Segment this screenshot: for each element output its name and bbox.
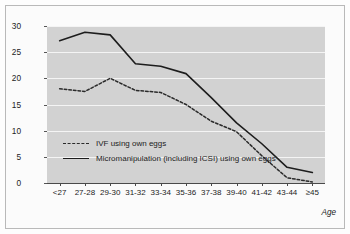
legend-key-dashed — [63, 143, 89, 144]
x-axis-tick-mark — [211, 183, 212, 186]
x-axis-tick-mark — [312, 183, 313, 186]
x-axis-tick-label: 29-30 — [100, 188, 120, 197]
x-axis-tick-mark — [85, 183, 86, 186]
x-axis-tick-mark — [186, 183, 187, 186]
y-axis-tick-label: 0 — [0, 178, 21, 188]
x-axis-tick-mark — [110, 183, 111, 186]
x-axis-tick-mark — [135, 183, 136, 186]
figure-container: Live birth per cycle started (percentage… — [0, 0, 350, 234]
legend-item: IVF using own eggs — [63, 136, 276, 151]
y-axis-tick-label: 10 — [0, 126, 21, 136]
legend: IVF using own eggsMicromanipulation (inc… — [63, 136, 276, 166]
y-axis-tick-label: 25 — [0, 47, 21, 57]
x-axis-tick-mark — [60, 183, 61, 186]
x-axis-tick-label: 37-38 — [201, 188, 221, 197]
x-axis-tick-label: <27 — [53, 188, 67, 197]
x-axis-title: Age — [321, 208, 336, 217]
x-axis-tick-label: ≥45 — [306, 188, 319, 197]
x-axis-tick-mark — [237, 183, 238, 186]
y-axis-tick-label: 15 — [0, 100, 21, 110]
legend-label: IVF using own eggs — [96, 139, 166, 148]
series-line — [60, 78, 313, 182]
x-axis-tick-label: 27-28 — [75, 188, 95, 197]
x-axis-tick-label: 41-42 — [252, 188, 272, 197]
x-axis-tick-mark — [262, 183, 263, 186]
legend-label: Micromanipulation (including ICSI) using… — [96, 154, 276, 163]
y-axis-tick-label: 30 — [0, 21, 21, 31]
x-axis-tick-label: 39-40 — [226, 188, 246, 197]
legend-key-solid — [63, 158, 89, 159]
x-axis-tick-label: 35-36 — [176, 188, 196, 197]
x-axis-tick-label: 33-34 — [150, 188, 170, 197]
y-axis-tick-label: 5 — [0, 152, 21, 162]
x-axis-tick-mark — [161, 183, 162, 186]
x-axis-tick-label: 43-44 — [277, 188, 297, 197]
x-axis-tick-label: 31-32 — [125, 188, 145, 197]
legend-item: Micromanipulation (including ICSI) using… — [63, 151, 276, 166]
y-axis-tick-label: 20 — [0, 73, 21, 83]
y-axis-title: Live birth per cycle started (percentage… — [0, 0, 7, 14]
x-axis-tick-mark — [287, 183, 288, 186]
